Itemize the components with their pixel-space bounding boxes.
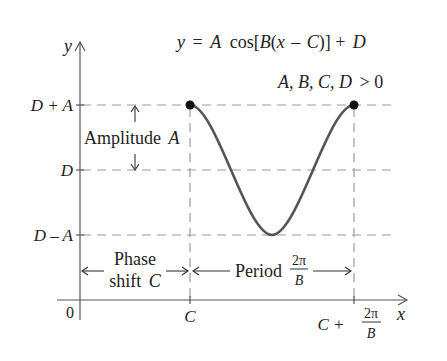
y-tick-label-max: D + A bbox=[30, 96, 74, 115]
y-tick-label-mid: D bbox=[60, 161, 74, 180]
start-point bbox=[186, 101, 195, 110]
conditions-text: A, B, C, D > 0 bbox=[277, 72, 383, 92]
period-frac-den: B bbox=[295, 273, 304, 288]
equation-title: y = A cos[B(x – C)] + D bbox=[175, 32, 366, 53]
phase-shift-label-line1: Phase bbox=[114, 249, 156, 269]
x-axis-label: x bbox=[396, 304, 405, 324]
x-tick-label-c: C bbox=[184, 307, 196, 326]
y-tick-label-min: D – A bbox=[33, 226, 74, 245]
end-point bbox=[350, 101, 359, 110]
x-tick-label-c-plus: C + bbox=[317, 315, 344, 334]
phase-shift-label-line2: shift C bbox=[109, 271, 162, 291]
x-tick-frac-den: B bbox=[367, 326, 376, 341]
period-label: Period bbox=[235, 261, 282, 281]
cosine-graph-diagram: y = A cos[B(x – C)] + D A, B, C, D > 0 y… bbox=[0, 0, 447, 361]
period-frac-num: 2π bbox=[292, 253, 306, 268]
amplitude-label: Amplitude A bbox=[84, 128, 181, 148]
origin-label: 0 bbox=[66, 304, 74, 321]
y-axis-label: y bbox=[62, 36, 72, 56]
x-tick-frac-num: 2π bbox=[364, 306, 378, 321]
